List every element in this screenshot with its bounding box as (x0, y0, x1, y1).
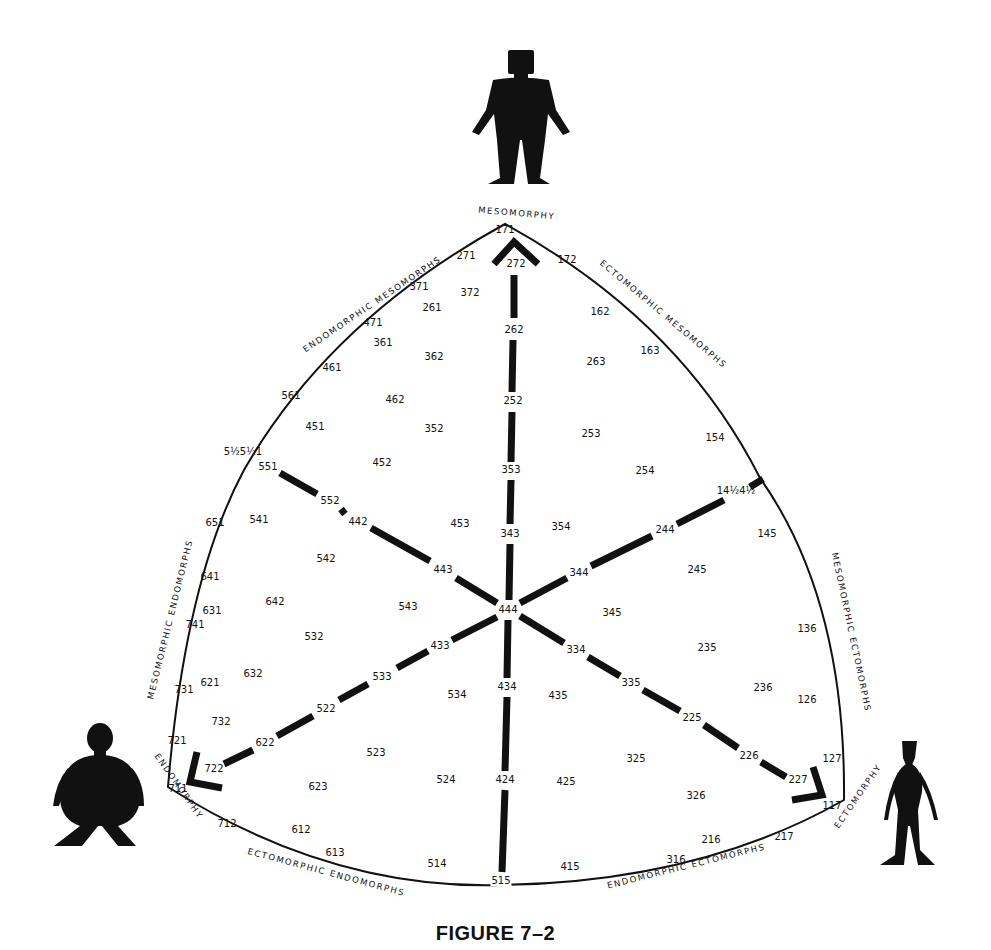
somatotype-code: 425 (556, 777, 575, 787)
somatotype-code: 631 (202, 606, 221, 616)
figure-caption: FIGURE 7–2 (0, 922, 991, 945)
somatotype-code: 14½4½ (717, 486, 755, 496)
somatotype-code: 163 (640, 346, 659, 356)
somatotype-code: 722 (204, 764, 223, 774)
somatotype-code: 632 (243, 669, 262, 679)
somatotype-code: 721 (167, 736, 186, 746)
somatotype-code: 622 (254, 738, 275, 748)
somatotype-code: 434 (496, 682, 517, 692)
somatotype-code: 462 (385, 395, 404, 405)
somatotype-code: 172 (557, 255, 576, 265)
somatotype-code: 235 (697, 643, 716, 653)
somatotype-code: 612 (291, 825, 310, 835)
somatotype-code: 424 (494, 775, 515, 785)
somatotype-code: 453 (450, 519, 469, 529)
somatotype-code: 732 (211, 717, 230, 727)
somatotype-code: 514 (427, 859, 446, 869)
somatotype-code: 362 (424, 352, 443, 362)
somatotype-code: 271 (456, 251, 475, 261)
somatotype-code: 442 (347, 517, 368, 527)
somatotype-code: 712 (217, 819, 236, 829)
somatotype-code: 117 (822, 801, 841, 811)
somatotype-code: 541 (249, 515, 268, 525)
ectomorph-silhouette (880, 741, 938, 865)
somatotype-code: 552 (319, 496, 340, 506)
somatotype-code: 171 (495, 225, 514, 235)
somatotype-code: 216 (701, 835, 720, 845)
somatotype-code: 325 (626, 754, 645, 764)
somatotype-code: 433 (429, 641, 450, 651)
somatotype-code: 534 (447, 690, 466, 700)
endomorph-silhouette (53, 723, 144, 846)
somatotype-code: 217 (774, 832, 793, 842)
somatotype-code: 741 (185, 620, 204, 630)
somatotype-code: 623 (308, 782, 327, 792)
somatotype-code: 262 (503, 325, 524, 335)
somatotype-code: 451 (305, 422, 324, 432)
somatotype-code: 522 (315, 704, 336, 714)
somatotype-code: 361 (373, 338, 392, 348)
mesomorph-silhouette (472, 50, 570, 184)
somatotype-code: 444 (497, 605, 518, 615)
somatotype-code: 561 (281, 391, 300, 401)
somatotype-code: 343 (499, 529, 520, 539)
somatotype-code: 523 (366, 748, 385, 758)
somatotype-code: 236 (753, 683, 772, 693)
somatotype-code: 253 (581, 429, 600, 439)
somatotype-code: 316 (666, 855, 685, 865)
somatotype-code: 335 (620, 678, 641, 688)
somatotype-code: 162 (590, 307, 609, 317)
somatotype-code: 452 (372, 458, 391, 468)
somatotype-code: 372 (460, 288, 479, 298)
somatotype-code: 435 (548, 691, 567, 701)
somatotype-code: 551 (257, 462, 278, 472)
somatotype-code: 226 (738, 751, 759, 761)
somatotype-code: 621 (200, 678, 219, 688)
somatotype-code: 326 (686, 791, 705, 801)
axis-to-ectomorphic-endomorphs (502, 620, 508, 872)
somatotype-code: 641 (200, 572, 219, 582)
somatotype-code: 272 (505, 259, 526, 269)
somatotype-code: 543 (398, 602, 417, 612)
somatotype-code: 711 (168, 784, 187, 794)
somatotype-code: 532 (304, 632, 323, 642)
somatotype-code: 533 (371, 672, 392, 682)
axis-to-endomorphic-mesomorphs (280, 473, 497, 603)
somatotype-code: 542 (316, 554, 335, 564)
somatotype-code: 524 (436, 775, 455, 785)
somatotype-code: 354 (551, 522, 570, 532)
somatotype-code: 136 (797, 624, 816, 634)
somatotype-code: 334 (565, 645, 586, 655)
somatotype-code: 252 (502, 396, 523, 406)
somatotype-code: 127 (822, 754, 841, 764)
somatotype-code: 154 (705, 433, 724, 443)
somatotype-code: 225 (681, 713, 702, 723)
somatotype-code: 352 (424, 424, 443, 434)
somatotype-code: 145 (757, 529, 776, 539)
somatotype-code: 471 (363, 318, 382, 328)
somatotype-code: 353 (500, 465, 521, 475)
somatotype-code: 245 (687, 565, 706, 575)
somatotype-code: 126 (797, 695, 816, 705)
somatotype-code: 461 (322, 363, 341, 373)
somatotype-code: 443 (432, 565, 453, 575)
somatotype-code: 415 (560, 862, 579, 872)
somatotype-code: 345 (602, 608, 621, 618)
somatotype-code: 371 (409, 282, 428, 292)
somatotype-code: 642 (265, 597, 284, 607)
somatotype-code: 731 (174, 685, 193, 695)
somatotype-code: 261 (422, 303, 441, 313)
somatotype-code: 651 (205, 518, 224, 528)
somatotype-code: 227 (787, 775, 808, 785)
somatotype-code: 5½5½1 (224, 447, 262, 457)
somatotype-code: 515 (490, 876, 511, 886)
somatotype-code: 244 (654, 525, 675, 535)
somatotype-code: 254 (635, 466, 654, 476)
somatotype-code: 613 (325, 848, 344, 858)
axis-to-mesomorphic-ectomorphs (520, 479, 763, 603)
somatotype-code: 344 (568, 568, 589, 578)
somatotype-code: 263 (586, 357, 605, 367)
somatotype-figure: MESOMORPHY ENDOMORPHIC MESOMORPHS ECTOMO… (0, 0, 991, 950)
